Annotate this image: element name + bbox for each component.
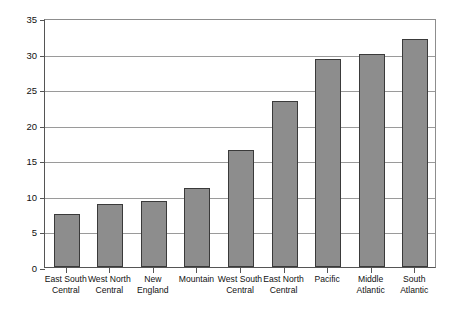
bar-south-atlantic <box>402 39 428 267</box>
x-axis-tick-label: SouthAtlantic <box>385 274 443 295</box>
bar-middle-atlantic <box>359 54 385 267</box>
y-axis-tick <box>40 91 45 92</box>
y-axis-tick-label: 25 <box>7 86 37 96</box>
x-axis-label-line: Atlantic <box>385 285 443 296</box>
y-axis-tick-label: 15 <box>7 157 37 167</box>
bar-chart: 05101520253035 East SouthCentralWest Nor… <box>0 0 453 320</box>
x-axis-label-line: England <box>124 285 182 296</box>
y-axis-tick-label: 35 <box>7 15 37 25</box>
x-axis-tick <box>196 268 197 273</box>
x-axis-tick <box>240 268 241 273</box>
y-axis-tick-label: 20 <box>7 122 37 132</box>
x-axis-label-line: South <box>385 274 443 285</box>
y-axis-tick <box>40 20 45 21</box>
plot-area: 05101520253035 <box>44 19 436 268</box>
bar-west-south-central <box>228 150 254 267</box>
y-axis-tick <box>40 127 45 128</box>
bar-mountain <box>184 188 210 267</box>
y-axis-tick-label: 30 <box>7 51 37 61</box>
y-axis-tick <box>40 56 45 57</box>
x-axis-tick <box>327 268 328 273</box>
y-axis-tick <box>40 233 45 234</box>
x-axis-tick <box>153 268 154 273</box>
bars-layer <box>45 20 435 267</box>
x-axis-tick <box>414 268 415 273</box>
y-axis-tick-label: 10 <box>7 193 37 203</box>
x-axis-tick <box>284 268 285 273</box>
y-axis-tick <box>40 198 45 199</box>
x-axis-tick <box>371 268 372 273</box>
bar-new-england <box>141 201 167 267</box>
x-axis-tick <box>109 268 110 273</box>
x-axis-tick <box>66 268 67 273</box>
bar-east-north-central <box>272 101 298 267</box>
y-axis-tick <box>40 162 45 163</box>
x-axis-label-line: Central <box>255 285 313 296</box>
y-axis-tick-label: 5 <box>7 228 37 238</box>
bar-west-north-central <box>97 204 123 267</box>
bar-east-south-central <box>54 214 80 267</box>
x-axis-labels: East SouthCentralWest NorthCentralNewEng… <box>44 274 436 318</box>
bar-pacific <box>315 59 341 267</box>
y-axis-tick-label: 0 <box>7 264 37 274</box>
